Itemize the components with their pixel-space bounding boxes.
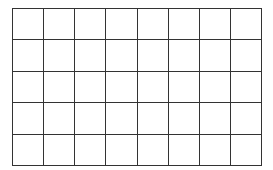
grid-cell	[200, 40, 231, 71]
grid-cell	[231, 135, 262, 166]
grid-cell	[231, 40, 262, 71]
grid-cell	[44, 103, 75, 134]
grid-cell	[75, 40, 106, 71]
grid-cell	[13, 135, 44, 166]
grid-cell	[200, 103, 231, 134]
grid-cell	[138, 72, 169, 103]
grid-cell	[75, 72, 106, 103]
grid-cell	[13, 103, 44, 134]
grid-cell	[138, 40, 169, 71]
grid-cell	[169, 72, 200, 103]
grid-cell	[138, 135, 169, 166]
grid-cell	[106, 9, 137, 40]
grid-cell	[75, 135, 106, 166]
grid-cell	[231, 72, 262, 103]
grid-cell	[44, 135, 75, 166]
grid-cell	[169, 135, 200, 166]
grid-cell	[44, 40, 75, 71]
empty-grid	[12, 8, 262, 166]
grid-cell	[231, 103, 262, 134]
grid-cell	[138, 103, 169, 134]
grid-cell	[106, 103, 137, 134]
grid-cell	[13, 72, 44, 103]
grid-cell	[200, 135, 231, 166]
grid-cell	[200, 72, 231, 103]
grid-cell	[231, 9, 262, 40]
grid-cell	[75, 103, 106, 134]
grid-cell	[169, 40, 200, 71]
grid-cell	[169, 9, 200, 40]
grid-cell	[106, 135, 137, 166]
grid-cell	[13, 9, 44, 40]
grid-cell	[169, 103, 200, 134]
grid-cell	[106, 72, 137, 103]
grid-cell	[13, 40, 44, 71]
grid-cell	[44, 72, 75, 103]
grid-cell	[200, 9, 231, 40]
grid-cell	[106, 40, 137, 71]
grid-cell	[44, 9, 75, 40]
grid-cell	[138, 9, 169, 40]
grid-cell	[75, 9, 106, 40]
